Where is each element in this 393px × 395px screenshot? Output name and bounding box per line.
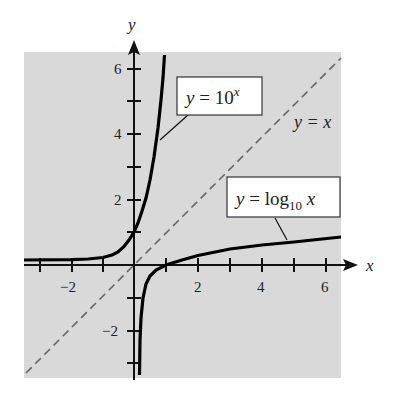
y-axis-label: y <box>126 15 136 34</box>
identity-label: y = x <box>292 112 331 132</box>
x-tick-label: −2 <box>60 279 76 295</box>
exp-label: y = 10x <box>184 84 240 108</box>
x-tick-label: 2 <box>194 279 202 295</box>
chart: y = 10x y = x y = log10 x y x −2 2 4 6 −… <box>0 0 393 395</box>
x-tick-label: 6 <box>321 279 329 295</box>
y-tick-label: 6 <box>114 61 122 77</box>
y-tick-label: 4 <box>114 126 122 142</box>
x-axis-label: x <box>365 256 374 275</box>
y-tick-label: 2 <box>114 192 122 208</box>
y-tick-label: −2 <box>102 323 118 339</box>
x-tick-label: 4 <box>257 279 265 295</box>
